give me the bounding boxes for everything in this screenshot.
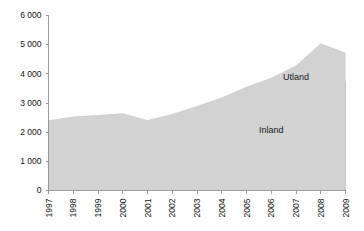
y-tick-label: 6 000 (20, 10, 42, 20)
y-tick-label: 3 000 (20, 98, 42, 108)
x-tick-label: 2001 (143, 198, 153, 217)
x-tick-label: 2009 (341, 198, 351, 217)
x-tick-label: 1998 (68, 198, 78, 217)
area-chart: 01 0002 0003 0004 0005 0006 000 19971998… (0, 0, 364, 231)
x-tick-label: 2007 (291, 198, 301, 217)
y-tick-label: 4 000 (20, 69, 42, 79)
x-tick-label: 2002 (167, 198, 177, 217)
x-tick-label: 2003 (192, 198, 202, 217)
x-tick-label: 2008 (316, 198, 326, 217)
y-tick-label: 0 (37, 185, 42, 195)
chart-canvas: 01 0002 0003 0004 0005 0006 000 19971998… (0, 0, 364, 231)
y-tick-label: 2 000 (20, 127, 42, 137)
x-tick-label: 1997 (44, 198, 54, 217)
x-tick-label: 2006 (266, 198, 276, 217)
series-label-utland: Utland (283, 72, 309, 82)
series-label-inland: Inland (259, 125, 284, 135)
y-tick-label: 1 000 (20, 156, 42, 166)
x-tick-label: 2004 (217, 198, 227, 217)
x-tick-label: 1999 (93, 198, 103, 217)
x-tick-label: 2000 (118, 198, 128, 217)
x-tick-label: 2005 (242, 198, 252, 217)
y-tick-label: 5 000 (20, 39, 42, 49)
